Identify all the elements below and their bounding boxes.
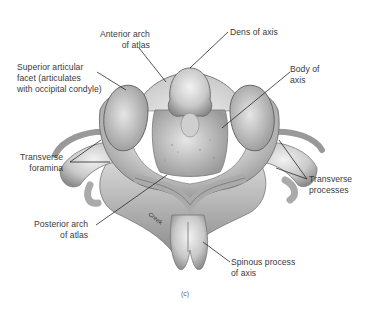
- label-transverse-processes: Transverse processes: [309, 174, 352, 196]
- label-spinous-process: Spinous process of axis: [231, 257, 295, 279]
- label-body-of-axis: Body of axis: [290, 64, 320, 86]
- label-posterior-arch: Posterior arch of atlas: [34, 219, 88, 241]
- label-dens: Dens of axis: [230, 27, 278, 38]
- label-anterior-arch: Anterior arch of atlas: [100, 29, 150, 51]
- atlas-axis-illustration: Anterior arch of atlas Dens of axis Supe…: [0, 0, 377, 312]
- label-transverse-foramina: Transverse foramina: [20, 152, 63, 174]
- figure-caption: (c): [181, 290, 189, 297]
- label-superior-facet: Superior articular facet (articulates wi…: [17, 62, 102, 95]
